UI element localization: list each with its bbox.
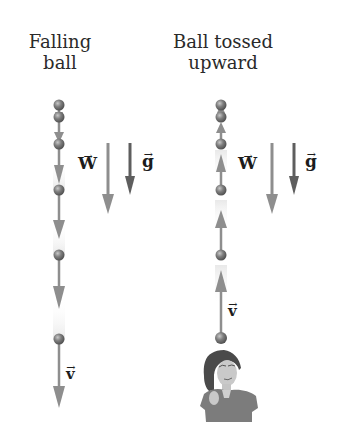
- velocity-label-tossed: → v: [228, 303, 237, 320]
- vector-arrow-glyph: →: [142, 146, 154, 163]
- ball: [54, 334, 65, 345]
- ball: [215, 332, 227, 344]
- vector-arrow-glyph: →: [78, 148, 97, 165]
- gravity-label-tossed: → g: [305, 153, 317, 170]
- vector-arrow-glyph: →: [228, 296, 237, 313]
- vector-arrow-glyph: →: [238, 148, 257, 165]
- motion-diagram: [0, 0, 343, 422]
- gravity-label-falling: → g: [142, 153, 154, 170]
- ball: [54, 250, 65, 261]
- gravity-arrow-tossed: [289, 143, 299, 195]
- ball: [216, 112, 227, 123]
- tossed-ball-strobe: [215, 100, 227, 345]
- weight-arrow-falling: [102, 143, 114, 214]
- ball: [54, 139, 65, 150]
- ball: [54, 185, 65, 196]
- vector-arrow-glyph: →: [305, 146, 317, 163]
- woman-figure: [200, 350, 258, 422]
- weight-label-tossed: → W: [238, 155, 257, 172]
- ball: [54, 100, 65, 111]
- ball: [216, 100, 227, 111]
- gravity-arrow-falling: [125, 143, 135, 195]
- ball: [216, 139, 227, 150]
- ball: [54, 112, 65, 123]
- ball: [216, 250, 227, 261]
- ball: [216, 185, 227, 196]
- vector-arrow-glyph: →: [66, 359, 75, 376]
- falling-ball-strobe: [53, 100, 65, 409]
- weight-label-falling: → W: [78, 155, 97, 172]
- weight-arrow-tossed: [266, 143, 278, 214]
- velocity-label-falling: → v: [66, 366, 75, 383]
